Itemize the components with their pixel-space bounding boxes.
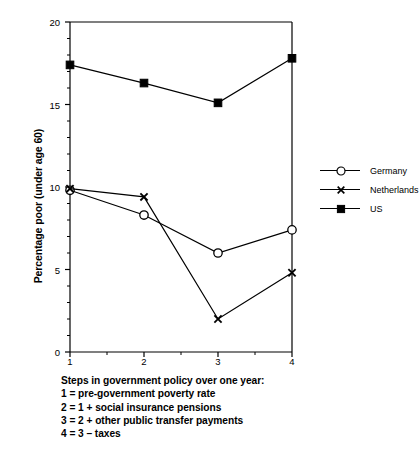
y-axis-label: Percentage poor (under age 60)	[32, 106, 44, 306]
y-tick-label-0: 0	[38, 347, 60, 358]
series-netherlands	[66, 185, 295, 323]
x-tick-label-3: 3	[210, 356, 226, 367]
legend-item-germany[interactable]: Germany	[318, 164, 420, 178]
series-us	[66, 55, 296, 107]
y-tick-label-5: 5	[38, 265, 60, 276]
legend-label-us: US	[370, 202, 383, 216]
filled-square-icon	[335, 203, 347, 215]
x-tick-label-4: 4	[284, 356, 300, 367]
open-circle-icon	[335, 165, 347, 177]
caption-line-1: 1 = pre-government poverty rate	[61, 387, 401, 400]
x-cross-icon	[335, 184, 347, 196]
series-germany	[66, 186, 296, 257]
legend-item-us[interactable]: US	[318, 202, 420, 216]
legend-item-netherlands[interactable]: Netherlands	[318, 183, 420, 197]
legend-label-germany: Germany	[370, 164, 407, 178]
caption-line-2: 2 = 1 + social insurance pensions	[61, 401, 401, 414]
caption-line-3: 3 = 2 + other public transfer payments	[61, 414, 401, 427]
caption-line-4: 4 = 3 – taxes	[61, 427, 401, 440]
y-tick-label-10: 10	[38, 182, 60, 193]
caption-block: Steps in government policy over one year…	[61, 374, 401, 440]
figure: Percentage poor (under age 60) 0 5 10 15…	[0, 0, 420, 452]
caption-line-0: Steps in government policy over one year…	[61, 374, 401, 387]
data-series-layer	[66, 55, 296, 323]
legend-label-netherlands: Netherlands	[370, 183, 419, 197]
y-axis-label-container: Percentage poor (under age 60)	[0, 0, 40, 452]
y-tick-label-15: 15	[38, 100, 60, 111]
axis-frame	[70, 22, 292, 352]
y-tick-label-20: 20	[38, 17, 60, 28]
x-tick-label-2: 2	[136, 356, 152, 367]
x-tick-label-1: 1	[62, 356, 78, 367]
